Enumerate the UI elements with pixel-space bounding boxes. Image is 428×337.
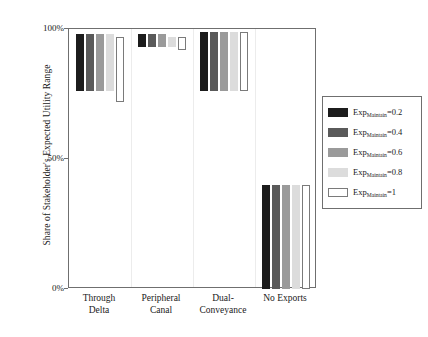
y-axis-ticks: 100% 50% 0% [16,0,64,337]
legend-label: ExpMaintain=0.6 [353,147,402,157]
y-tick-label-100: 100% [20,24,64,33]
category-separator [131,29,132,287]
bar [86,34,94,91]
bar [262,185,270,289]
legend-label: ExpMaintain=1 [353,187,396,197]
legend-label: ExpMaintain=0.2 [353,107,402,117]
legend-box: ExpMaintain=0.2ExpMaintain=0.4ExpMaintai… [322,96,422,209]
y-tick-mark-0 [64,288,68,289]
x-axis-label-line: Canal [130,305,192,317]
chart-container: Share of Stakeholder's Expected Utility … [0,0,428,337]
plot-area [68,28,316,288]
bar [200,32,208,92]
legend-item[interactable]: ExpMaintain=0.4 [328,122,417,142]
category-separator [255,29,256,287]
legend-swatch [328,168,348,177]
legend-item[interactable]: ExpMaintain=1 [328,182,417,202]
x-axis-label-line: Through [68,293,130,305]
bar [210,32,218,92]
x-axis-label-line: Dual- [192,293,254,305]
bar [168,37,176,47]
bar [282,185,290,289]
x-axis-label-line: Conveyance [192,305,254,317]
category-separator [193,29,194,287]
bar [106,34,114,91]
legend-item[interactable]: ExpMaintain=0.8 [328,162,417,182]
y-tick-label-0: 0% [20,284,64,293]
bar [148,34,156,47]
bar [178,37,186,50]
bar [116,37,124,102]
bar [220,32,228,92]
y-tick-label-50: 50% [20,154,64,163]
bar [96,34,104,91]
legend-item[interactable]: ExpMaintain=0.6 [328,142,417,162]
x-axis-label: PeripheralCanal [130,293,192,316]
bar [240,32,248,92]
bar [272,185,280,289]
bar [230,32,238,92]
legend-swatch [328,188,348,197]
x-axis-label-line: Peripheral [130,293,192,305]
x-axis-label: No Exports [254,293,316,305]
x-axis-label-line: No Exports [254,293,316,305]
legend-label: ExpMaintain=0.8 [353,167,402,177]
bar [292,185,300,289]
bar [138,34,146,47]
bar [302,185,310,289]
legend-item[interactable]: ExpMaintain=0.2 [328,102,417,122]
legend-swatch [328,148,348,157]
legend-swatch [328,128,348,137]
bar [158,34,166,47]
legend-label: ExpMaintain=0.4 [353,127,402,137]
legend-swatch [328,108,348,117]
x-axis-label-line: Delta [68,305,130,317]
x-axis-label: ThroughDelta [68,293,130,316]
bar [76,34,84,91]
x-axis-label: Dual-Conveyance [192,293,254,316]
